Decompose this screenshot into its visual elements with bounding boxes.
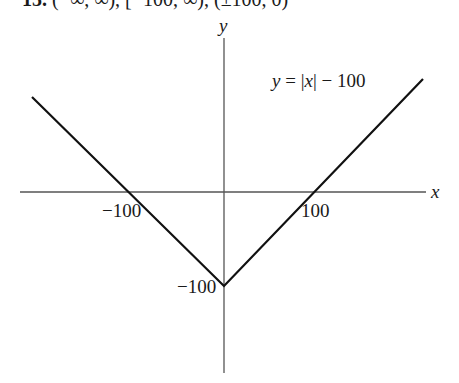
x-axis-label: x [430,181,440,202]
x-tick-100: 100 [301,200,330,221]
absolute-value-curve [32,79,423,286]
graph: x y −100 100 −100 y = |x| − 100 [0,0,459,383]
y-axis-label: y [217,15,228,36]
x-tick-neg100: −100 [102,200,141,221]
y-tick-neg100: −100 [177,276,216,297]
equation-label: y = |x| − 100 [270,70,365,91]
